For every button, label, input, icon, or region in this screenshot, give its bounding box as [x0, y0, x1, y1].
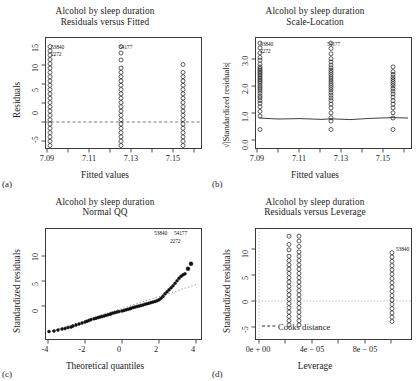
panel-normal-qq: Alcohol by sleep duration Normal QQ (c) … [0, 191, 210, 381]
panel-residuals-versus-leverage: Alcohol by sleep duration Residuals vers… [210, 191, 420, 381]
panel-scale-location: Alcohol by sleep duration Scale-Location… [210, 0, 420, 191]
diagnostic-plot-figure: Alcohol by sleep duration Residuals vers… [0, 0, 420, 381]
panel-b-plot-area [210, 0, 420, 190]
panel-a-plot-area [0, 0, 210, 190]
panel-residuals-versus-fitted: Alcohol by sleep duration Residuals vers… [0, 0, 210, 191]
panel-c-plot-area [0, 191, 210, 381]
panel-d-plot-area [210, 191, 420, 381]
